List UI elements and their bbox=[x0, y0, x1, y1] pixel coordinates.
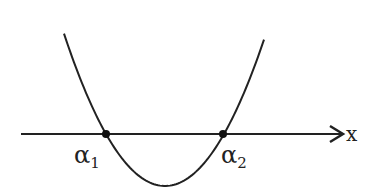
root-point-2 bbox=[219, 130, 227, 138]
x-axis-label: x bbox=[346, 122, 358, 146]
root-label-2: α2 bbox=[221, 141, 247, 172]
parabola-diagram: x α1 α2 bbox=[0, 0, 372, 196]
root-label-2-symbol: α bbox=[221, 141, 237, 169]
root-label-1-subscript: 1 bbox=[90, 154, 100, 172]
root-label-1: α1 bbox=[74, 141, 100, 172]
root-label-2-subscript: 2 bbox=[237, 154, 247, 172]
root-label-1-symbol: α bbox=[74, 141, 90, 169]
root-point-1 bbox=[102, 130, 110, 138]
